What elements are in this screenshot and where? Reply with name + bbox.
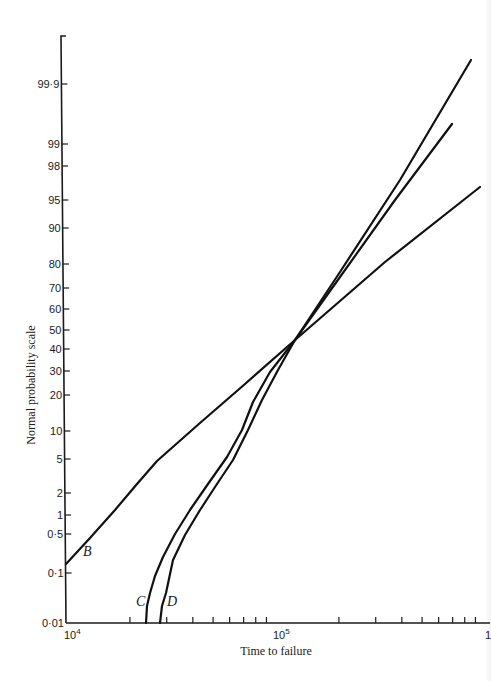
x-axis-title: Time to failure [240, 644, 312, 658]
y-tick-label: 99 [48, 138, 60, 150]
curve-d [160, 60, 471, 623]
y-tick-label: 40 [49, 343, 61, 355]
x-tick-label: 105 [273, 627, 290, 641]
x-axis-tick-labels: 1041051 [64, 627, 491, 641]
y-tick-label: 99·9 [37, 78, 59, 90]
y-tick-label: 2 [57, 487, 63, 499]
y-tick-label: 60 [49, 303, 61, 315]
probability-plot: 99·99998959080706050403020105210·50·10·0… [0, 0, 491, 681]
y-tick-label: 70 [49, 282, 61, 294]
y-tick-label: 5 [56, 453, 62, 465]
y-tick-label: 0·5 [47, 528, 63, 540]
y-tick-label: 90 [48, 222, 60, 234]
x-tick-label: 104 [64, 627, 81, 641]
y-tick-label: 0·1 [48, 567, 64, 579]
x-axis-ticks [130, 617, 476, 623]
y-tick-label: 1 [57, 509, 63, 521]
curve-label-b: B [83, 544, 92, 559]
curve-label-d: D [166, 594, 177, 609]
y-tick-label: 10 [50, 425, 62, 437]
y-tick-label: 0·01 [42, 617, 64, 629]
curve-label-c: C [136, 594, 146, 609]
y-axis-title: Normal probability scale [24, 325, 38, 444]
y-tick-label: 50 [49, 324, 61, 336]
curve-c [146, 124, 452, 623]
y-tick-label: 95 [48, 194, 60, 206]
y-tick-label: 80 [49, 258, 61, 270]
y-tick-label: 98 [48, 160, 60, 172]
y-axis-ticks: 99·99998959080706050403020105210·50·10·0… [37, 78, 71, 629]
y-tick-label: 20 [50, 389, 62, 401]
y-tick-label: 30 [50, 365, 62, 377]
x-tick-label: 1 [485, 629, 491, 641]
curve-b [66, 187, 480, 564]
